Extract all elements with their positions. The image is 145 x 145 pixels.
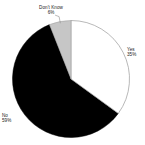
pie-label-no-value: 59% [2, 118, 11, 123]
pie-chart-svg [0, 0, 145, 145]
pie-chart-figure: Yes 35% No 59% Don't Know 6% [0, 0, 145, 145]
pie-label-dont-know: Don't Know 6% [28, 5, 74, 16]
pie-label-yes: Yes 35% [127, 47, 136, 58]
pie-label-no: No 59% [2, 113, 11, 124]
pie-label-yes-value: 35% [127, 52, 136, 57]
pie-label-dont-know-value: 6% [28, 10, 74, 15]
